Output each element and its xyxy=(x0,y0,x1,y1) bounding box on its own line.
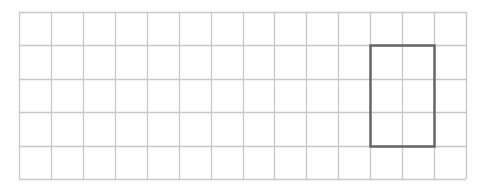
grid-lines xyxy=(19,12,467,180)
square-grid xyxy=(0,0,482,190)
